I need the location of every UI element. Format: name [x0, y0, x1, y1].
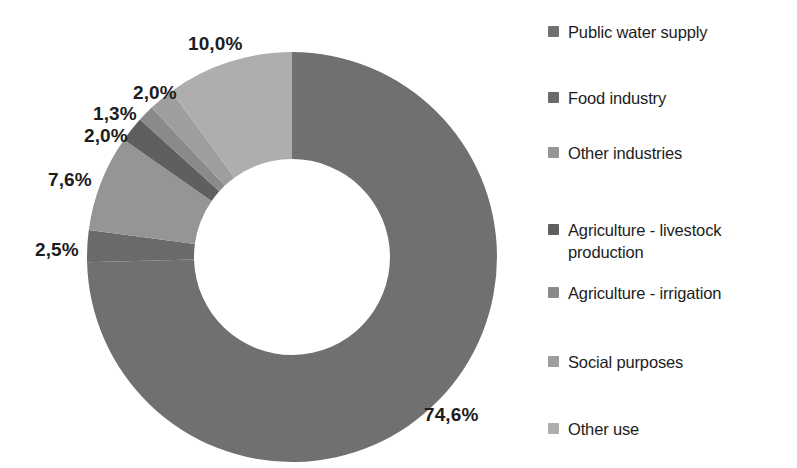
legend-item-label: Social purposes: [568, 352, 683, 374]
data-label-percent: 1,3%: [93, 103, 137, 125]
donut-chart-figure: Public water supply 74,6%Food industry 2…: [0, 0, 797, 468]
legend-swatch-icon: [548, 26, 559, 37]
legend-swatch-icon: [548, 287, 559, 298]
data-label-percent: 7,6%: [48, 169, 92, 191]
legend-item[interactable]: Agriculture - irrigation: [548, 283, 793, 305]
legend-swatch-icon: [548, 147, 559, 158]
legend-item[interactable]: Social purposes: [548, 352, 793, 374]
data-label-percent: 2,0%: [84, 125, 128, 147]
data-label-percent: 10,0%: [188, 33, 242, 55]
donut-chart-svg: Public water supply 74,6%Food industry 2…: [0, 0, 520, 468]
legend-swatch-icon: [548, 356, 559, 367]
legend-item-label: Public water supply: [568, 22, 707, 44]
legend-item-label: Other use: [568, 419, 639, 441]
donut-slices-group: Public water supply 74,6%Food industry 2…: [87, 52, 497, 462]
chart-legend: Public water supplyFood industryOther in…: [548, 0, 797, 468]
legend-swatch-icon: [548, 92, 559, 103]
legend-item[interactable]: Public water supply: [548, 22, 793, 44]
data-label-percent: 2,5%: [35, 239, 79, 261]
legend-item[interactable]: Other use: [548, 419, 793, 441]
legend-item[interactable]: Agriculture - livestock production: [548, 220, 793, 264]
legend-item-label: Agriculture - livestock production: [568, 220, 793, 264]
legend-item-label: Food industry: [568, 88, 666, 110]
legend-swatch-icon: [548, 224, 559, 235]
donut-chart-area: Public water supply 74,6%Food industry 2…: [0, 0, 520, 468]
legend-swatch-icon: [548, 423, 559, 434]
legend-item[interactable]: Food industry: [548, 88, 793, 110]
data-label-percent: 74,6%: [424, 404, 478, 426]
legend-item-label: Agriculture - irrigation: [568, 283, 721, 305]
legend-item[interactable]: Other industries: [548, 143, 793, 165]
data-label-percent: 2,0%: [133, 82, 177, 104]
legend-item-label: Other industries: [568, 143, 682, 165]
